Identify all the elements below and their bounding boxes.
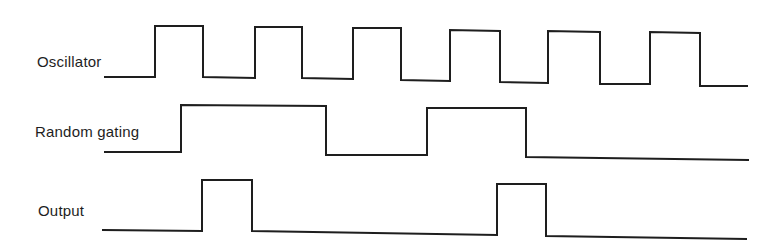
- timing-diagram: Oscillator Random gating Output: [0, 0, 782, 248]
- random-gating-waveform: [105, 105, 748, 160]
- oscillator-waveform: [105, 26, 747, 86]
- output-waveform: [103, 180, 746, 239]
- waveforms: [0, 0, 782, 248]
